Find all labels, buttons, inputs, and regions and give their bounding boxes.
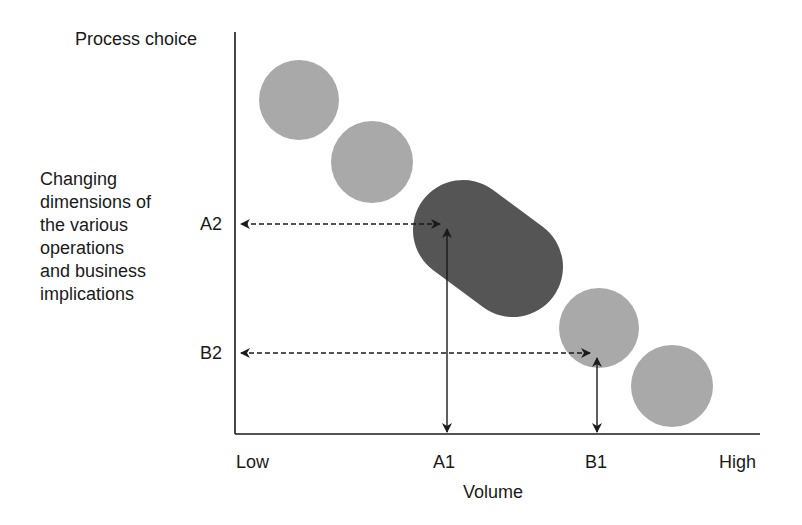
y-tick-a2: A2 xyxy=(200,213,222,235)
y-description-line: Changing xyxy=(40,168,151,191)
x-axis-label: Volume xyxy=(463,481,523,503)
y-description-line: the various xyxy=(40,214,151,237)
x-tick-a1: A1 xyxy=(433,451,455,473)
y-description-line: operations xyxy=(40,237,151,260)
y-description-line: and business xyxy=(40,260,151,283)
y-axis-title: Process choice xyxy=(75,28,197,50)
y-tick-b2: B2 xyxy=(200,342,222,364)
x-tick-low: Low xyxy=(236,451,269,473)
process-circle-1 xyxy=(259,60,339,140)
process-circle-2 xyxy=(331,121,413,203)
x-tick-b1: B1 xyxy=(585,451,607,473)
y-description-line: dimensions of xyxy=(40,191,151,214)
process-capsule-dark xyxy=(463,230,513,267)
y-axis-description: Changing dimensions of the various opera… xyxy=(40,168,151,306)
y-description-line: implications xyxy=(40,283,151,306)
process-circle-4 xyxy=(559,288,639,368)
process-circle-5 xyxy=(631,345,713,427)
x-tick-high: High xyxy=(719,451,756,473)
